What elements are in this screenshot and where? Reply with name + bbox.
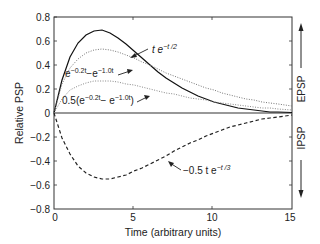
y-tick-label: −0.2 [30, 132, 50, 143]
x-tick-labels: 0 5 10 15 [52, 212, 296, 223]
x-tick-label: 0 [52, 212, 58, 223]
series-diff-exp [54, 49, 292, 113]
label-te-t2: t e−t /2 [152, 43, 177, 55]
curves [54, 30, 292, 179]
epsp-label: EPSP [296, 75, 307, 102]
y-tick-label: 0.6 [36, 36, 50, 47]
y-tick-label: 0.2 [36, 84, 50, 95]
y-axis-label: Relative PSP [13, 82, 25, 144]
label-half-diff-exp: 0.5(e−0.2t− e−1.0t) [62, 94, 134, 106]
y-tick-label: −0.4 [30, 156, 50, 167]
right-annotations: EPSP IPSP [296, 23, 307, 198]
y-tick-label: −0.6 [30, 180, 50, 191]
y-tick-label: 0.8 [36, 12, 50, 23]
y-tick-labels: 0.8 0.6 0.4 0.2 0 −0.2 −0.4 −0.6 −0.8 [30, 12, 50, 215]
y-tick-label: 0.4 [36, 60, 50, 71]
x-tick-label: 10 [206, 212, 218, 223]
x-tick-label: 15 [284, 212, 296, 223]
ipsp-label: IPSP [296, 126, 307, 149]
psp-chart: 0.8 0.6 0.4 0.2 0 −0.2 −0.4 −0.6 −0.8 0 … [0, 0, 320, 244]
label-neg-te-t3: −0.5 t e−t /3 [183, 164, 231, 176]
y-tick-label: 0 [44, 108, 50, 119]
annotations: t e−t /2 e−0.2t−e−1.0t 0.5(e−0.2t− e−1.0… [62, 43, 231, 176]
series-neg-te-t3 [54, 113, 292, 179]
label-diff-exp: e−0.2t−e−1.0t [65, 67, 114, 79]
x-axis-label: Time (arbitrary units) [125, 226, 221, 238]
x-tick-label: 5 [130, 212, 136, 223]
y-tick-label: −0.8 [30, 204, 50, 215]
